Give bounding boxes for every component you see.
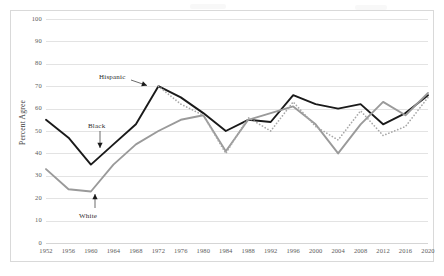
series-annotation-hispanic: Hispanic: [99, 74, 125, 81]
series-annotation-black: Black: [88, 123, 105, 130]
annotation-white-arrowhead: [92, 194, 97, 199]
chart-screenshot: 0102030405060708090100 19521956196019641…: [0, 0, 444, 276]
series-annotation-white: White: [79, 213, 97, 220]
annotation-hispanic-arrowhead: [141, 81, 147, 86]
series-line-white: [46, 93, 428, 192]
annotation-black-arrowhead: [97, 143, 102, 148]
annotation-arrows: [92, 80, 147, 208]
series-layer: [0, 0, 444, 276]
